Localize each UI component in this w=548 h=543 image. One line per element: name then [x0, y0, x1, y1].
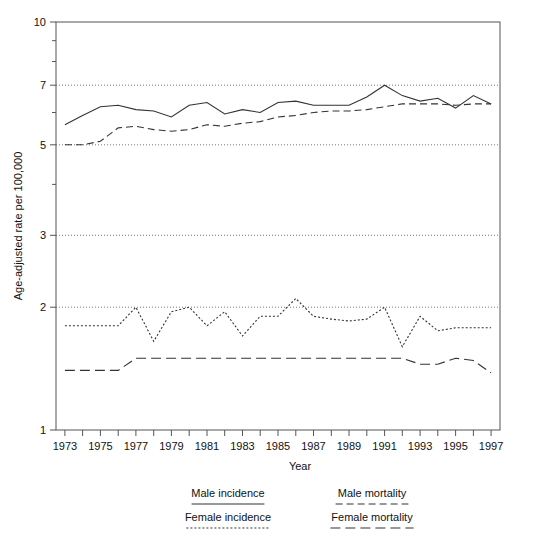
gridlines [56, 85, 500, 307]
legend-label: Male mortality [338, 487, 407, 499]
x-tick-label: 1975 [88, 440, 112, 452]
y-axis-ticks [50, 22, 56, 430]
x-tick-label: 1997 [479, 440, 503, 452]
x-tick-label: 1991 [372, 440, 396, 452]
legend-label: Female mortality [331, 511, 413, 523]
x-tick-label: 1993 [408, 440, 432, 452]
x-tick-label: 1983 [230, 440, 254, 452]
figure-container: 1235710 19731975197719791981198319851987… [0, 0, 548, 543]
y-axis-label: Age-adjusted rate per 100,000 [12, 152, 24, 301]
y-tick-label: 10 [34, 16, 46, 28]
x-axis-label: Year [289, 460, 312, 472]
x-axis-tick-labels: 1973197519771979198119831985198719891991… [53, 440, 504, 452]
y-tick-label: 3 [40, 229, 46, 241]
y-tick-label: 1 [40, 424, 46, 436]
x-axis-ticks [65, 430, 491, 436]
plot-frame [56, 22, 500, 430]
y-axis-tick-labels: 1235710 [34, 16, 46, 436]
x-tick-label: 1989 [337, 440, 361, 452]
series-line-male-incidence [65, 85, 491, 125]
series-line-male-mortality [65, 104, 491, 145]
line-chart: 1235710 19731975197719791981198319851987… [0, 0, 548, 543]
plot-area-border [56, 22, 500, 430]
series-line-female-incidence [65, 299, 491, 347]
y-tick-label: 2 [40, 301, 46, 313]
y-tick-label: 7 [40, 79, 46, 91]
x-tick-label: 1981 [195, 440, 219, 452]
chart-legend: Male incidenceMale mortalityFemale incid… [185, 487, 414, 528]
x-tick-label: 1973 [53, 440, 77, 452]
series-line-female-mortality [65, 358, 491, 373]
x-tick-label: 1977 [124, 440, 148, 452]
data-series-group [65, 85, 491, 373]
legend-label: Female incidence [185, 511, 271, 523]
x-tick-label: 1979 [159, 440, 183, 452]
x-tick-label: 1995 [443, 440, 467, 452]
legend-label: Male incidence [191, 487, 264, 499]
x-tick-label: 1985 [266, 440, 290, 452]
y-tick-label: 5 [40, 139, 46, 151]
x-tick-label: 1987 [301, 440, 325, 452]
